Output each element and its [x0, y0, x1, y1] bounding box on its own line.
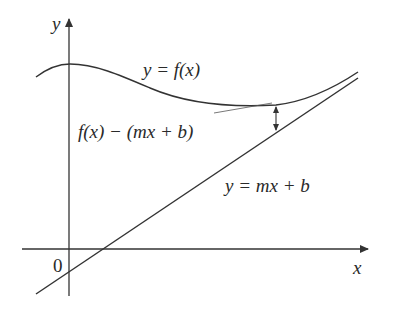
y-axis-label: y	[52, 14, 60, 33]
x-axis-label: x	[353, 258, 361, 277]
curve-label: y = f(x)	[143, 60, 200, 79]
origin-label: 0	[53, 256, 63, 275]
gap-label: f(x) − (mx + b)	[78, 122, 193, 141]
asymptote-diagram: y x 0 y = f(x) f(x) − (mx + b) y = mx + …	[0, 0, 393, 322]
line-label: y = mx + b	[225, 176, 310, 195]
